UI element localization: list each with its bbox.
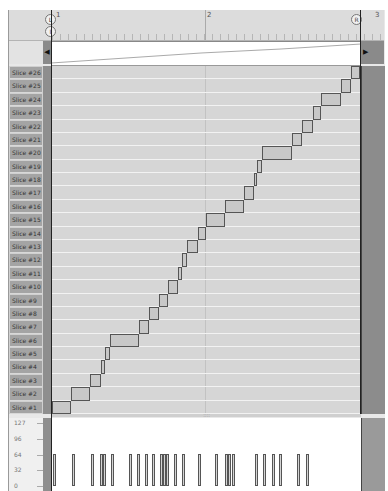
slice-block[interactable] [254, 173, 257, 186]
lane-splitter[interactable]: :::: [52, 414, 361, 417]
velocity-bar[interactable] [232, 454, 235, 486]
slice-label[interactable]: Slice #13 [10, 241, 42, 253]
slice-label[interactable]: Slice #12 [10, 254, 42, 266]
slice-label[interactable]: Slice #23 [10, 107, 42, 119]
slice-block[interactable] [139, 320, 149, 333]
slice-label[interactable]: Slice #15 [10, 214, 42, 226]
scroll-left-button[interactable]: ◀ [43, 41, 51, 64]
velocity-scale-label: 0 [14, 482, 18, 489]
slice-block[interactable] [52, 401, 71, 414]
slice-block[interactable] [292, 133, 302, 146]
slice-label[interactable]: Slice #22 [10, 121, 42, 133]
vertical-scrollbar[interactable] [361, 66, 385, 414]
velocity-bar[interactable] [255, 454, 258, 486]
slice-label[interactable]: Slice #6 [10, 335, 42, 347]
slice-block[interactable] [257, 160, 262, 173]
slice-label[interactable]: Slice #8 [10, 308, 42, 320]
grid-row-line [52, 172, 361, 173]
slice-label-column: Slice #26Slice #25Slice #24Slice #23Slic… [9, 66, 43, 414]
left-locator-line [51, 10, 52, 491]
slice-block[interactable] [71, 387, 90, 400]
bar-number-1: 1 [56, 11, 60, 19]
velocity-bar[interactable] [91, 454, 94, 486]
slice-label[interactable]: Slice #1 [10, 402, 42, 414]
slice-block[interactable] [262, 146, 292, 159]
slice-block[interactable] [225, 200, 244, 213]
timeline-ruler[interactable]: 1 2 3 [9, 10, 384, 41]
slice-block[interactable] [341, 79, 351, 92]
slice-label[interactable]: Slice #4 [10, 361, 42, 373]
velocity-bar[interactable] [174, 454, 177, 486]
velocity-scale-label: 127 [14, 419, 25, 426]
slice-block[interactable] [187, 240, 198, 253]
slice-label[interactable]: Slice #10 [10, 281, 42, 293]
slice-block[interactable] [149, 307, 159, 320]
slice-block[interactable] [90, 374, 101, 387]
grid-row-line [52, 319, 361, 320]
velocity-bar[interactable] [111, 454, 114, 486]
grid-row-line [52, 359, 361, 360]
bar-number-2: 2 [207, 11, 211, 19]
slice-block[interactable] [313, 106, 321, 119]
velocity-bar[interactable] [152, 454, 155, 486]
slice-label[interactable]: Slice #7 [10, 321, 42, 333]
slice-label[interactable]: Slice #19 [10, 161, 42, 173]
overview-waveform[interactable] [51, 41, 361, 66]
slice-label[interactable]: Slice #18 [10, 174, 42, 186]
velocity-bar[interactable] [272, 454, 275, 486]
slice-label[interactable]: Slice #14 [10, 228, 42, 240]
slice-block[interactable] [244, 186, 254, 199]
velocity-bar[interactable] [137, 454, 140, 486]
velocity-bar[interactable] [215, 454, 218, 486]
velocity-bar[interactable] [263, 454, 266, 486]
slice-block[interactable] [101, 360, 105, 373]
grid-row-line [52, 199, 361, 200]
slice-block[interactable] [351, 66, 360, 79]
slice-block[interactable] [168, 280, 178, 293]
slice-label[interactable]: Slice #25 [10, 80, 42, 92]
velocity-bar[interactable] [103, 454, 106, 486]
slice-block[interactable] [178, 267, 182, 280]
velocity-bar[interactable] [198, 454, 201, 486]
slice-block[interactable] [302, 120, 313, 133]
scroll-right-button[interactable]: ▶ [361, 41, 384, 64]
velocity-bar[interactable] [72, 454, 75, 486]
velocity-bar[interactable] [297, 454, 300, 486]
grid-row-line [52, 185, 361, 186]
bar-number-3: 3 [375, 11, 379, 19]
slice-block[interactable] [198, 227, 206, 240]
slice-label[interactable]: Slice #21 [10, 134, 42, 146]
slice-block[interactable] [206, 213, 225, 226]
velocity-lane[interactable] [52, 418, 361, 491]
slice-label[interactable]: Slice #9 [10, 295, 42, 307]
grid-row-line [52, 78, 361, 79]
slice-block[interactable] [110, 334, 139, 347]
velocity-bar[interactable] [228, 454, 231, 486]
slice-block[interactable] [159, 294, 168, 307]
velocity-bar[interactable] [145, 454, 148, 486]
velocity-bar[interactable] [182, 454, 185, 486]
velocity-bar[interactable] [129, 454, 132, 486]
velocity-bar[interactable] [53, 454, 56, 486]
grid-row-line [52, 92, 361, 93]
slice-label[interactable]: Slice #26 [10, 67, 42, 79]
slice-label[interactable]: Slice #2 [10, 388, 42, 400]
velocity-bar[interactable] [166, 454, 169, 486]
slice-label[interactable]: Slice #11 [10, 268, 42, 280]
slice-label[interactable]: Slice #3 [10, 375, 42, 387]
overview-curve [51, 42, 361, 65]
grid-row-line [52, 159, 361, 160]
velocity-bar[interactable] [279, 454, 282, 486]
velocity-scale: 1279664320 [9, 418, 43, 491]
slice-block[interactable] [321, 93, 341, 106]
slice-grid[interactable] [52, 66, 361, 414]
slice-label[interactable]: Slice #5 [10, 348, 42, 360]
velocity-bar[interactable] [306, 454, 309, 486]
slice-label[interactable]: Slice #16 [10, 201, 42, 213]
slice-block[interactable] [182, 253, 187, 266]
slice-label[interactable]: Slice #24 [10, 94, 42, 106]
slice-label[interactable]: Slice #17 [10, 187, 42, 199]
slice-block[interactable] [105, 347, 110, 360]
velocity-scrollbar[interactable] [361, 418, 385, 491]
slice-label[interactable]: Slice #20 [10, 147, 42, 159]
